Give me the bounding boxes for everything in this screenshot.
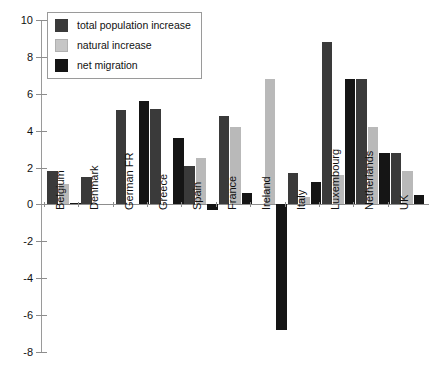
x-axis-label: France xyxy=(227,176,238,210)
x-axis-label: Ireland xyxy=(261,177,272,211)
x-tick-mark xyxy=(44,202,45,207)
bar xyxy=(139,101,150,204)
x-tick-mark xyxy=(285,202,286,207)
x-tick-mark xyxy=(78,202,79,207)
legend-item-natural-increase: natural increase xyxy=(55,39,191,52)
y-tick-label: -6 xyxy=(23,310,33,321)
x-tick-mark xyxy=(388,202,389,207)
x-axis-label: Luxembourg xyxy=(330,149,341,210)
y-tick-label: 10 xyxy=(21,15,33,26)
y-tick-mark xyxy=(36,278,47,279)
y-tick-label: -8 xyxy=(23,347,33,358)
y-axis-line xyxy=(41,20,42,352)
x-tick-mark xyxy=(216,202,217,207)
y-tick-mark xyxy=(36,168,47,169)
y-tick-mark xyxy=(36,20,47,21)
legend-item-label: net migration xyxy=(77,60,138,71)
legend-swatch-icon xyxy=(55,19,68,32)
x-axis-label: Italy xyxy=(296,190,307,210)
y-tick-label: 4 xyxy=(27,125,33,136)
x-tick-mark xyxy=(181,202,182,207)
legend-swatch-icon xyxy=(55,39,68,52)
x-axis-label: Greece xyxy=(158,174,169,210)
legend-item-net-migration: net migration xyxy=(55,59,191,72)
legend-item-label: total population increase xyxy=(77,20,191,31)
y-tick-mark xyxy=(36,131,47,132)
x-tick-mark xyxy=(147,202,148,207)
legend-item-label: natural increase xyxy=(77,40,152,51)
legend-swatch-icon xyxy=(55,59,68,72)
bar xyxy=(345,79,356,204)
x-axis-label: Belgium xyxy=(55,171,66,211)
y-tick-label: 0 xyxy=(27,199,33,210)
x-axis-label: Denmark xyxy=(89,166,100,211)
y-tick-label: -2 xyxy=(23,236,33,247)
bar xyxy=(173,138,184,204)
x-axis-label: Netherlands xyxy=(364,151,375,210)
bar xyxy=(379,153,390,205)
x-tick-mark xyxy=(250,202,251,207)
x-axis-label: German FR xyxy=(124,153,135,210)
bar xyxy=(414,195,425,204)
y-tick-mark xyxy=(36,204,47,205)
y-tick-label: 8 xyxy=(27,51,33,62)
bar xyxy=(276,204,287,329)
y-tick-label: 6 xyxy=(27,88,33,99)
chart-legend: total population increase natural increa… xyxy=(47,12,202,79)
bar-chart: total population increase natural increa… xyxy=(0,0,438,379)
y-tick-mark xyxy=(36,94,47,95)
bar xyxy=(311,182,322,204)
x-tick-mark xyxy=(353,202,354,207)
y-tick-mark xyxy=(36,57,47,58)
legend-item-total-population-increase: total population increase xyxy=(55,19,191,32)
y-tick-label: 2 xyxy=(27,162,33,173)
y-tick-mark xyxy=(36,241,47,242)
y-tick-label: -4 xyxy=(23,273,33,284)
x-tick-mark xyxy=(319,202,320,207)
x-tick-mark xyxy=(113,202,114,207)
x-axis-label: UK xyxy=(399,195,410,210)
x-axis-label: Spain xyxy=(192,182,203,210)
y-tick-mark xyxy=(36,352,47,353)
y-tick-mark xyxy=(36,315,47,316)
